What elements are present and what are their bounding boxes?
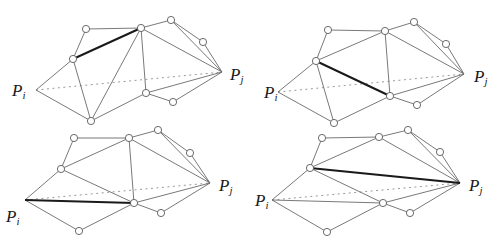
edge-d-pj <box>414 22 464 74</box>
vertex-d <box>404 126 411 133</box>
vertex-e <box>199 38 206 45</box>
vertex-a <box>324 26 331 33</box>
vertex-g <box>413 101 420 108</box>
vertex-h <box>87 117 94 124</box>
vertex-c <box>306 164 313 171</box>
edge-d-pj <box>171 20 222 72</box>
edge-pi-h <box>272 200 327 232</box>
vertex-h <box>323 228 330 235</box>
highlighted-edge <box>316 61 390 96</box>
edge-b-pj <box>129 138 210 183</box>
edge-a-b <box>86 28 141 29</box>
edge-c-b <box>61 138 129 169</box>
highlighted-edge <box>25 200 134 203</box>
edge-g-pj <box>417 74 464 105</box>
vertex-b <box>375 133 382 140</box>
vertex-b <box>137 24 144 31</box>
edge-pi-h <box>25 200 79 231</box>
vertex-a <box>318 134 325 141</box>
vertex-f <box>142 89 149 96</box>
edge-d-pj <box>408 130 460 183</box>
edge-h-f <box>91 93 146 121</box>
edge-b-d <box>379 130 408 137</box>
edge-h-f <box>79 203 134 231</box>
label-p-i: Pi <box>263 83 277 103</box>
edge-e-pj <box>190 153 210 183</box>
edge-pi-f <box>272 200 383 203</box>
edge-h-b <box>91 28 141 121</box>
edge-g-pj <box>161 183 210 213</box>
highlighted-edge <box>73 28 141 59</box>
vertex-c <box>57 165 64 172</box>
edge-b-f <box>129 138 134 203</box>
edge-f-g <box>390 96 417 105</box>
edge-d-e <box>408 130 440 152</box>
panel-top-left: PiPj <box>11 16 243 124</box>
edge-f-pj <box>146 72 222 93</box>
vertex-g <box>406 209 413 216</box>
edge-pi-c <box>278 61 316 92</box>
vertex-f <box>379 199 386 206</box>
edge-pi-c <box>36 59 73 90</box>
vertex-f <box>386 92 393 99</box>
label-p-i: Pi <box>5 207 19 227</box>
edge-pi-h <box>36 90 91 121</box>
edge-e-pj <box>203 42 222 72</box>
edge-e-pj <box>440 152 460 183</box>
label-p-j: Pj <box>229 65 243 85</box>
edge-b-f <box>141 28 146 93</box>
label-p-j: Pj <box>218 176 232 196</box>
edge-b-pj <box>385 31 464 74</box>
edge-b-d <box>385 22 414 31</box>
vertex-g <box>169 98 176 105</box>
panel-bottom-right: PiPj <box>254 126 482 235</box>
edge-f-g <box>383 203 410 213</box>
edge-d-pj <box>158 130 210 183</box>
edge-c-h <box>316 61 334 123</box>
edge-d-e <box>171 20 203 42</box>
edge-g-pj <box>410 183 460 213</box>
label-p-j: Pj <box>468 176 482 196</box>
edge-pi-h <box>278 92 334 123</box>
vertex-a <box>82 25 89 32</box>
vertex-d <box>167 16 174 23</box>
edge-d-e <box>158 130 190 153</box>
vertex-e <box>442 40 449 47</box>
edge-h-f <box>334 96 390 123</box>
edge-f-g <box>146 93 173 102</box>
vertex-a <box>70 134 77 141</box>
edge-a-b <box>328 30 385 31</box>
edge-pi-c <box>272 168 310 200</box>
vertex-h <box>75 227 82 234</box>
dotted-segment-pi-pj <box>278 74 464 92</box>
dotted-segment-pi-pj <box>36 72 222 90</box>
edge-b-pj <box>141 28 222 72</box>
triangulation-diagram: PiPj PiPj PiPj PiPj <box>0 0 502 245</box>
vertex-d <box>154 126 161 133</box>
vertex-e <box>436 148 443 155</box>
edge-b-d <box>141 20 171 28</box>
vertex-g <box>157 209 164 216</box>
edge-c-f <box>61 169 134 203</box>
panel-bottom-left: PiPj <box>5 126 232 234</box>
label-p-i: Pi <box>254 191 268 211</box>
dotted-segment-pi-pj <box>272 183 460 200</box>
edge-c-h <box>73 59 91 121</box>
vertex-c <box>312 57 319 64</box>
edge-b-f <box>385 31 390 96</box>
vertex-h <box>330 119 337 126</box>
dotted-segment-pi-pj <box>25 183 210 200</box>
edge-b-d <box>129 130 158 138</box>
edge-pi-c <box>25 169 61 200</box>
panel-top-right: PiPj <box>263 18 487 126</box>
vertex-c <box>69 55 76 62</box>
edge-d-e <box>414 22 446 44</box>
edge-f-pj <box>134 183 210 203</box>
vertex-b <box>125 134 132 141</box>
edge-f-g <box>134 203 161 213</box>
label-p-j: Pj <box>473 67 487 87</box>
vertex-f <box>130 199 137 206</box>
vertex-e <box>186 149 193 156</box>
label-p-i: Pi <box>11 81 25 101</box>
edge-a-b <box>322 137 379 138</box>
